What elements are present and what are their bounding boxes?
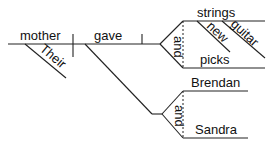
do-conjunction-word: and [171, 36, 186, 58]
do-word-strings: strings [197, 5, 236, 20]
io-slant-line [85, 44, 152, 114]
io-word-sandra: Sandra [195, 122, 238, 137]
subject-word: mother [20, 28, 61, 43]
do-word-picks: picks [200, 52, 230, 67]
io-conjunction-word: and [172, 105, 187, 127]
verb-word: gave [94, 28, 122, 43]
io-word-brendan: Brendan [191, 75, 240, 90]
modifier-word-new: new [204, 18, 232, 46]
sentence-diagram: mother gave Their and strings new guitar… [0, 0, 271, 147]
